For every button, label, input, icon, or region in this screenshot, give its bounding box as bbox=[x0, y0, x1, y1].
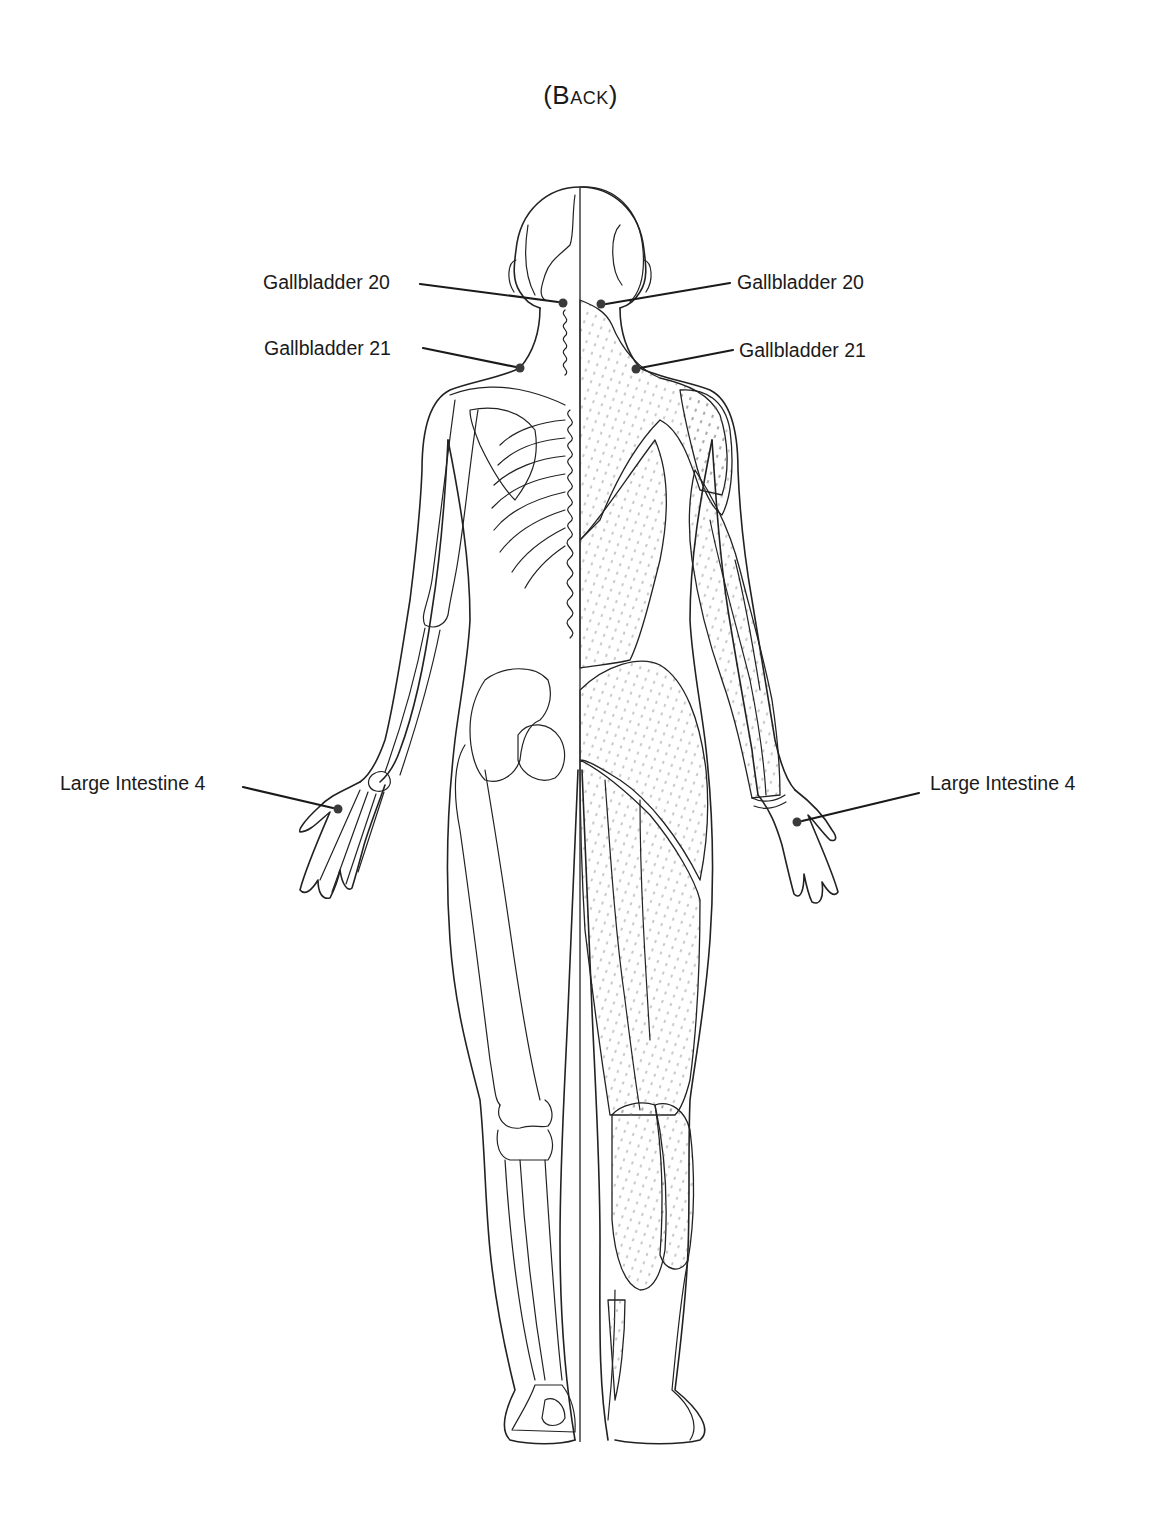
acupoint-gb21-right bbox=[632, 365, 641, 374]
leader-gb20-right bbox=[606, 283, 730, 304]
acupoint-gb21-left bbox=[516, 364, 525, 373]
label-gallbladder-21-left: Gallbladder 21 bbox=[264, 339, 391, 359]
leader-gb21-right bbox=[640, 350, 733, 368]
acupoint-gb20-right bbox=[597, 300, 606, 309]
leader-li4-right bbox=[802, 793, 919, 821]
acupoint-li4-right bbox=[793, 818, 802, 827]
anatomy-figure bbox=[0, 0, 1161, 1522]
leader-gb20-left bbox=[420, 284, 558, 302]
acupoint-li4-left bbox=[334, 805, 343, 814]
leader-gb21-left bbox=[423, 348, 516, 367]
label-large-intestine-4-left: Large Intestine 4 bbox=[60, 774, 205, 794]
label-gallbladder-20-left: Gallbladder 20 bbox=[263, 273, 390, 293]
skeleton-layer bbox=[320, 195, 575, 1432]
acupoint-gb20-left bbox=[559, 299, 568, 308]
body-outline bbox=[300, 187, 838, 1444]
label-gallbladder-20-right: Gallbladder 20 bbox=[737, 273, 864, 293]
leader-li4-left bbox=[243, 787, 333, 808]
label-gallbladder-21-right: Gallbladder 21 bbox=[739, 341, 866, 361]
label-large-intestine-4-right: Large Intestine 4 bbox=[930, 774, 1075, 794]
muscle-layer bbox=[580, 187, 780, 1440]
